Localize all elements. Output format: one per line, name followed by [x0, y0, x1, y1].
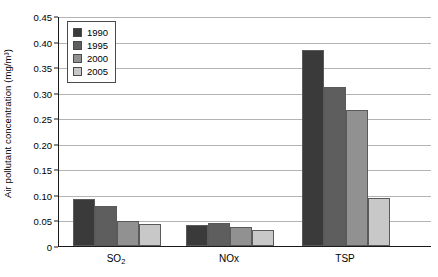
- bar: [117, 221, 139, 246]
- bar: [73, 199, 95, 246]
- chart-legend: 1990199520002005: [67, 21, 116, 83]
- bar-chart: Air pollutant concentration (mg/m³) 00.0…: [0, 0, 438, 277]
- y-axis-tick-label: 0: [8, 242, 52, 253]
- legend-swatch-icon: [73, 67, 82, 76]
- legend-item: 1990: [73, 26, 108, 39]
- bar-group: [302, 17, 390, 246]
- legend-item-label: 2000: [87, 54, 108, 64]
- plot-area: 1990199520002005: [58, 17, 431, 247]
- legend-swatch-icon: [73, 41, 82, 50]
- bar: [346, 110, 368, 246]
- bar: [208, 223, 230, 247]
- y-axis-tick-label: 0.45: [8, 12, 52, 23]
- bar-group: [186, 17, 274, 246]
- legend-swatch-icon: [73, 54, 82, 63]
- legend-item: 2000: [73, 52, 108, 65]
- y-axis-tick-label: 0.40: [8, 37, 52, 48]
- x-axis-category-label: NOx: [219, 253, 239, 264]
- bar: [186, 225, 208, 246]
- bar: [95, 206, 117, 246]
- legend-item: 1995: [73, 39, 108, 52]
- x-axis-category-label: TSP: [335, 253, 354, 264]
- y-axis-tick-label: 0.05: [8, 216, 52, 227]
- legend-item-label: 1995: [87, 41, 108, 51]
- bar: [230, 227, 252, 246]
- bar: [302, 50, 324, 246]
- y-axis-tick-label: 0.10: [8, 190, 52, 201]
- y-axis-tick-label: 0.15: [8, 165, 52, 176]
- y-axis-tick-label: 0.35: [8, 63, 52, 74]
- x-axis-category-label: SO2: [107, 253, 126, 264]
- legend-item-label: 1990: [87, 28, 108, 38]
- bar: [139, 224, 161, 246]
- y-axis-tick-label: 0.20: [8, 139, 52, 150]
- y-axis-tick-label: 0.25: [8, 114, 52, 125]
- legend-item: 2005: [73, 65, 108, 78]
- bar: [324, 87, 346, 246]
- legend-swatch-icon: [73, 28, 82, 37]
- legend-item-label: 2005: [87, 67, 108, 77]
- bar: [252, 230, 274, 246]
- bar: [368, 198, 390, 246]
- y-axis-tick-label: 0.30: [8, 88, 52, 99]
